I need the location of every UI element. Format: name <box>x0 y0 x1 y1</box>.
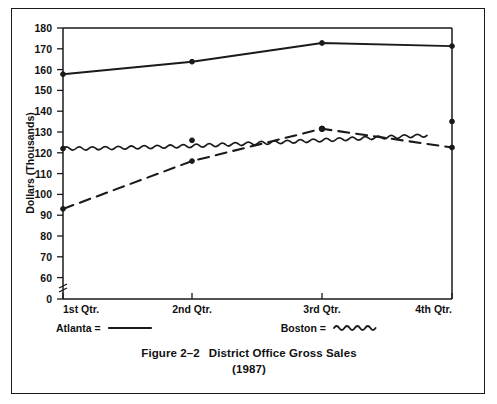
y-tick-170: 170 <box>34 43 52 55</box>
legend-swatch-solid-icon <box>107 322 153 334</box>
y-tick-0: 0 <box>46 293 52 305</box>
y-tick-labels: 180 170 160 150 140 130 120 110 100 90 8… <box>34 22 52 305</box>
series-atlanta <box>61 41 455 77</box>
y-tick-150: 150 <box>34 84 52 96</box>
line-chart: 180 170 160 150 140 130 120 110 100 90 8… <box>0 0 497 404</box>
data-point <box>450 44 455 49</box>
x-axis-ticks <box>63 293 452 299</box>
y-tick-60: 60 <box>40 272 52 284</box>
y-tick-80: 80 <box>40 230 52 242</box>
y-axis-label: Dollars (Thousands) <box>24 112 36 214</box>
x-tick-q2: 2nd Qtr. <box>172 303 212 315</box>
caption-figure-number: Figure 2–2 <box>141 347 200 359</box>
y-tick-120: 120 <box>34 147 52 159</box>
data-point <box>320 41 325 46</box>
series-chicago <box>61 126 455 211</box>
x-tick-q4: 4th Qtr. <box>415 303 452 315</box>
data-point <box>61 207 66 212</box>
data-point <box>190 59 195 64</box>
data-point <box>320 126 325 131</box>
legend-label-atlanta: Atlanta = <box>56 322 101 334</box>
x-tick-q3: 3rd Qtr. <box>303 303 340 315</box>
legend-swatch-wavy-icon <box>332 322 378 334</box>
legend-item-boston: Boston = <box>281 322 378 334</box>
series-boston <box>61 119 455 151</box>
y-tick-140: 140 <box>34 105 52 117</box>
y-tick-130: 130 <box>34 126 52 138</box>
data-point <box>61 72 66 77</box>
caption-year: (1987) <box>20 361 478 377</box>
data-point <box>190 159 195 164</box>
x-tick-q1: 1st Qtr. <box>63 303 99 315</box>
caption-title: District Office Gross Sales <box>209 347 357 359</box>
y-axis-ticks <box>57 28 63 299</box>
chart-legend: Atlanta = Boston = Chicago = <box>28 319 474 337</box>
y-tick-110: 110 <box>35 168 52 180</box>
legend-label-boston: Boston = <box>281 322 326 334</box>
y-tick-100: 100 <box>34 188 52 200</box>
y-tick-90: 90 <box>40 209 52 221</box>
legend-item-atlanta: Atlanta = <box>56 322 153 334</box>
figure-page: 180 170 160 150 140 130 120 110 100 90 8… <box>0 0 497 404</box>
x-tick-labels: 1st Qtr. 2nd Qtr. 3rd Qtr. 4th Qtr. <box>63 303 452 315</box>
y-tick-180: 180 <box>34 22 52 34</box>
figure-caption: Figure 2–2District Office Gross Sales (1… <box>20 345 478 377</box>
data-point <box>450 145 455 150</box>
data-point <box>61 146 66 151</box>
y-tick-160: 160 <box>34 64 52 76</box>
data-point <box>450 119 455 124</box>
data-point <box>190 138 195 143</box>
y-tick-70: 70 <box>40 251 52 263</box>
